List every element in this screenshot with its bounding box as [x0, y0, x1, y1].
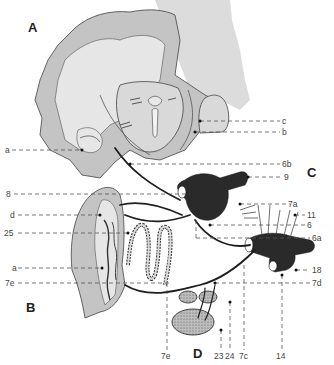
label-7d: 7d [312, 278, 322, 288]
label-b: b [282, 127, 287, 137]
anatomical-diagram: A B C D a 8 d 25 a 7e c b 6b 9 7a 11 6 6… [0, 0, 334, 365]
label-8: 8 [6, 189, 11, 199]
label-c: c [282, 116, 287, 126]
label-6: 6 [307, 220, 312, 230]
label-24: 24 [225, 351, 235, 361]
label-7c: 7c [239, 351, 249, 361]
panel-c-ganglia [178, 172, 315, 272]
label-18: 18 [312, 265, 322, 275]
label-6b: 6b [282, 159, 292, 169]
panel-label-b: B [26, 300, 35, 315]
panel-label-a: A [28, 20, 38, 35]
label-6a: 6a [312, 233, 322, 243]
label-23: 23 [214, 351, 224, 361]
label-7e-bottom: 7e [161, 351, 171, 361]
panel-b-hemisphere [71, 187, 170, 318]
label-a-panel-a: a [5, 145, 10, 155]
label-d: d [10, 210, 15, 220]
label-11: 11 [307, 210, 316, 220]
label-7a: 7a [288, 199, 298, 209]
panel-label-d: D [193, 346, 202, 361]
label-7e-left: 7e [5, 278, 15, 288]
panel-label-c: C [307, 165, 317, 180]
label-14: 14 [276, 351, 286, 361]
panel-d-organs [172, 291, 217, 335]
panel-a-brain-section [35, 0, 250, 178]
label-a-panel-b: a [12, 263, 17, 273]
label-25: 25 [4, 228, 14, 238]
label-9: 9 [284, 172, 289, 182]
